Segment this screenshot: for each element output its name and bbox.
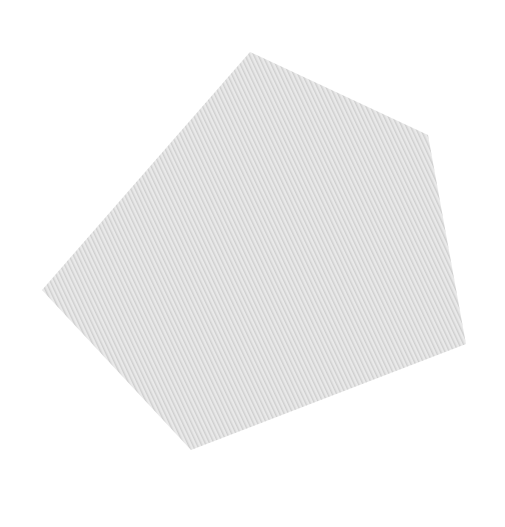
gray-pentagon-shape xyxy=(42,52,466,450)
canvas xyxy=(0,0,505,527)
